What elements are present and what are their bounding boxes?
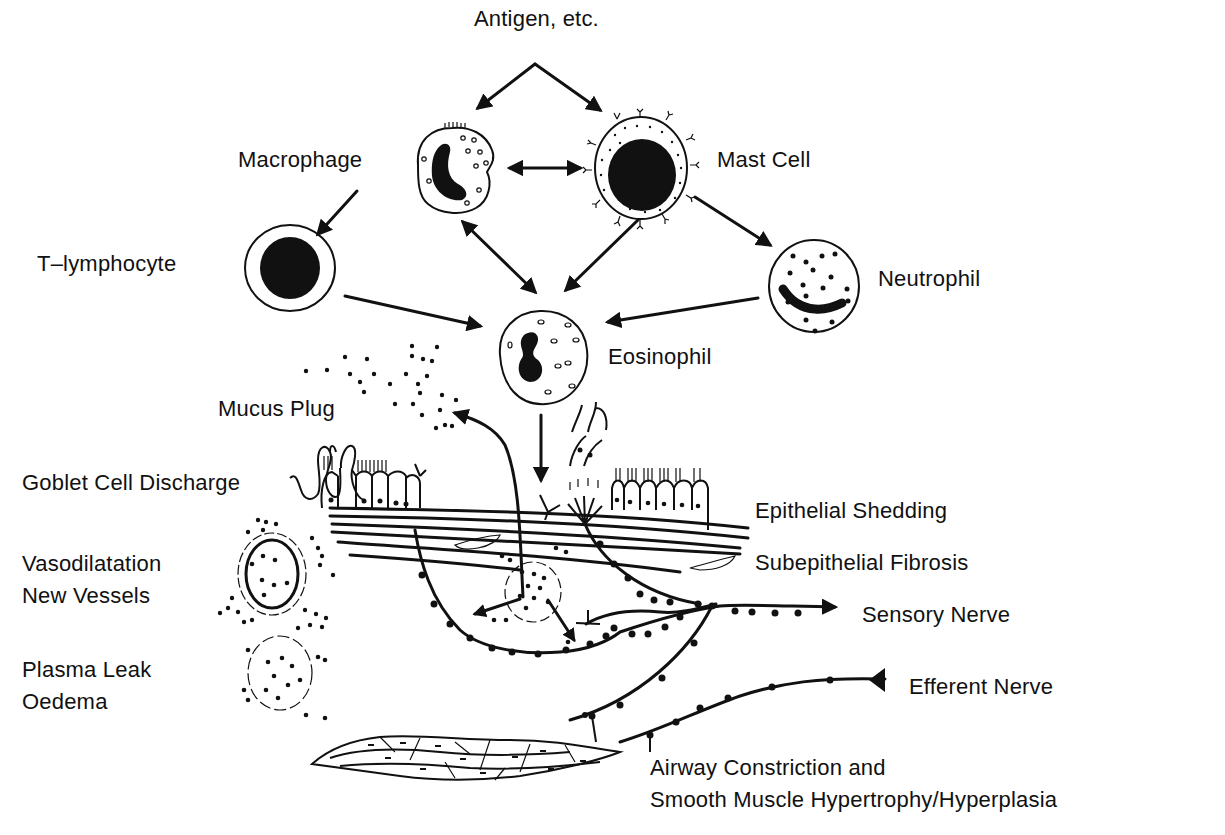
label-airway-constriction-smooth-muscle: Airway Constriction and Smooth Muscle Hy…	[650, 752, 1057, 816]
arrow-antigen-to-mast-cell	[535, 64, 600, 110]
label-plasma-leak-oedema: Plasma Leak Oedema	[22, 654, 151, 718]
arrow-t-lymphocyte-to-eosinophil	[345, 296, 480, 326]
arrow-antigen-to-macrophage	[478, 64, 535, 108]
label-efferent-nerve: Efferent Nerve	[909, 676, 1053, 698]
asthma-pathophysiology-diagram	[0, 0, 1225, 835]
t-lymphocyte-cell	[245, 225, 335, 311]
label-antigen: Antigen, etc.	[474, 8, 599, 30]
arrow-macrophage-to-t-lymphocyte	[318, 191, 357, 234]
vessel-extravasated-particles	[218, 518, 335, 630]
label-mast-cell: Mast Cell	[717, 149, 811, 171]
label-smooth-muscle: Smooth Muscle Hypertrophy/Hyperplasia	[650, 784, 1057, 816]
label-vasodilatation: Vasodilatation	[22, 548, 161, 580]
interaction-arrows	[318, 64, 770, 480]
label-goblet-cell-discharge: Goblet Cell Discharge	[22, 472, 240, 494]
eosinophil-cell	[500, 311, 587, 404]
label-airway-constriction: Airway Constriction and	[650, 752, 1057, 784]
submucosal-vessel	[475, 546, 574, 645]
label-t-lymphocyte: T–lymphocyte	[37, 253, 176, 275]
label-vasodilatation-new-vessels: Vasodilatation New Vessels	[22, 548, 161, 612]
smooth-muscle-bundle	[312, 736, 620, 780]
arrow-vessel-leak-left	[475, 599, 520, 614]
label-macrophage: Macrophage	[238, 149, 362, 171]
arrow-vessel-leak-down	[548, 600, 574, 640]
label-new-vessels: New Vessels	[22, 580, 161, 612]
label-sensory-nerve: Sensory Nerve	[862, 604, 1010, 626]
new-vessel	[218, 518, 335, 630]
label-neutrophil: Neutrophil	[878, 268, 980, 290]
arrow-mast-cell-to-eosinophil	[566, 220, 638, 290]
arrow-neutrophil-to-eosinophil	[608, 298, 758, 322]
label-subepithelial-fibrosis: Subepithelial Fibrosis	[755, 552, 969, 574]
leaky-vessel	[242, 636, 328, 720]
label-plasma-leak: Plasma Leak	[22, 654, 151, 686]
arrow-macrophage-eosinophil	[463, 222, 535, 292]
mast-cell	[583, 109, 699, 229]
label-mucus-plug: Mucus Plug	[218, 398, 335, 420]
macrophage-cell	[418, 122, 494, 213]
label-eosinophil: Eosinophil	[608, 346, 712, 368]
arrow-mast-cell-to-neutrophil	[695, 197, 770, 245]
label-oedema: Oedema	[22, 686, 151, 718]
neutrophil-cell	[769, 240, 859, 334]
label-epithelial-shedding: Epithelial Shedding	[755, 500, 947, 522]
